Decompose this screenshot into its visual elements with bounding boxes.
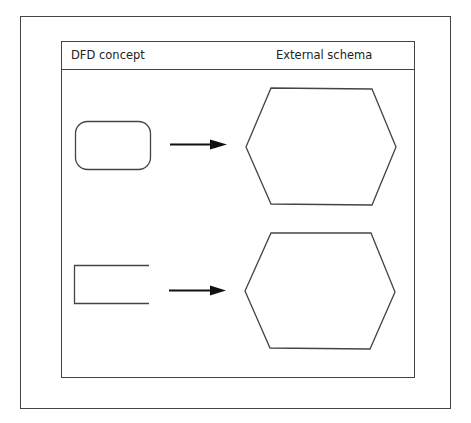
diagram-shapes (0, 0, 471, 423)
mapping-arrow-icon (169, 286, 226, 296)
row-process (76, 88, 397, 205)
row-data-store (75, 233, 396, 349)
external-schema-hexagon-icon (245, 233, 395, 349)
process-rounded-rectangle-icon (76, 122, 151, 170)
external-schema-hexagon-icon (246, 88, 396, 205)
mapping-arrow-icon (170, 140, 227, 150)
data-store-open-rectangle-icon (75, 266, 150, 304)
